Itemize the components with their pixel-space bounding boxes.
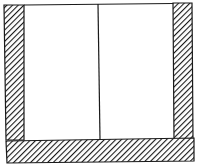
container-cross-section-diagram xyxy=(0,0,198,165)
left-wall xyxy=(4,5,24,140)
right-wall xyxy=(173,3,193,139)
base-slab xyxy=(6,138,194,163)
